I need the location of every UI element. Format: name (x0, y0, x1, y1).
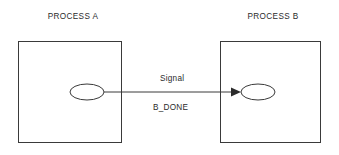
signal-label: Signal (160, 74, 184, 83)
signal-name-label: B_DONE (153, 103, 188, 112)
process-a-node-ellipse (70, 84, 104, 100)
process-signal-diagram: PROCESS A PROCESS B Signal B_DONE (0, 0, 339, 155)
process-b-node-ellipse (241, 84, 275, 100)
diagram-canvas: PROCESS A PROCESS B Signal B_DONE (0, 0, 339, 155)
process-b-title: PROCESS B (248, 12, 299, 21)
process-a-title: PROCESS A (48, 12, 99, 21)
